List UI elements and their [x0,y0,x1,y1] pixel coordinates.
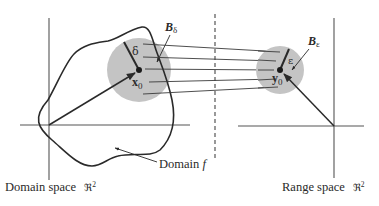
domain-panel: δ x0 Bδ Domain f Domain spaceℜ2 [5,18,207,194]
range-panel: ε y0 Bε Range spaceℜ2 [238,18,365,194]
epsilon-ball-label: Bε [307,34,320,49]
range-space-label: Range spaceℜ2 [282,180,365,194]
continuity-diagram: δ x0 Bδ Domain f Domain spaceℜ2 [0,0,379,206]
domain-f-label: Domain f [159,157,207,171]
epsilon-radius-label: ε [288,55,293,66]
domain-position-vector [49,73,135,125]
delta-radius-label: δ [132,45,139,58]
range-position-vector [284,74,334,126]
x0-point [136,67,142,73]
delta-ball-label: Bδ [164,20,177,35]
domain-space-label: Domain spaceℜ2 [5,180,96,194]
